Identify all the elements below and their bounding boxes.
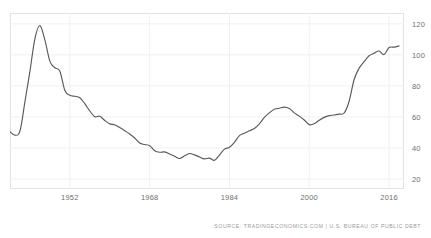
horizontal-gridlines	[10, 24, 404, 179]
plot-canvas	[10, 13, 404, 189]
y-tick-label: 20	[412, 175, 421, 184]
y-tick-label: 40	[412, 144, 421, 153]
debt-to-gdp-line	[10, 26, 399, 161]
y-tick-label: 100	[412, 51, 425, 60]
x-tick-label: 1952	[61, 193, 79, 202]
y-tick-label: 80	[412, 82, 421, 91]
y-tick-label: 120	[412, 20, 425, 29]
debt-to-gdp-chart: 20406080100120 19521968198420002016 SOUR…	[0, 0, 431, 238]
x-tick-label: 1968	[141, 193, 159, 202]
vertical-gridlines	[70, 13, 389, 189]
source-attribution: SOURCE: TRADINGECONOMICS.COM | U.S. BURE…	[214, 223, 421, 229]
x-tick-label: 2000	[300, 193, 318, 202]
y-tick-label: 60	[412, 113, 421, 122]
x-tick-label: 2016	[380, 193, 398, 202]
x-tick-label: 1984	[221, 193, 239, 202]
